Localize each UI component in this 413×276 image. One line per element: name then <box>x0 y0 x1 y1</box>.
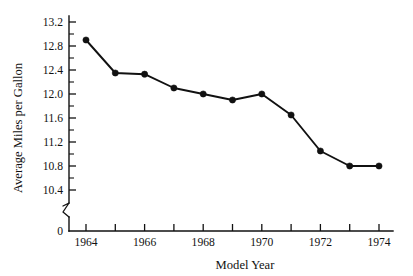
data-series-average-mpg <box>83 37 382 169</box>
x-tick-label: 1972 <box>309 236 332 249</box>
data-point <box>83 37 89 43</box>
y-origin-label: 0 <box>57 225 63 238</box>
y-tick-label: 10.8 <box>43 160 63 173</box>
y-axis-break-icon <box>63 203 69 217</box>
x-axis <box>69 224 393 231</box>
chart-container: 10.410.811.211.612.012.412.813.201964196… <box>0 0 413 276</box>
y-tick-label: 12.0 <box>43 88 63 101</box>
data-point <box>112 70 118 76</box>
data-point <box>288 112 294 118</box>
y-tick-label: 12.8 <box>43 40 63 53</box>
x-tick-label: 1974 <box>367 236 390 249</box>
y-axis <box>63 16 76 231</box>
y-tick-label: 11.6 <box>43 112 63 125</box>
data-point <box>200 91 206 97</box>
y-axis-title: Average Miles per Gallon <box>11 62 25 193</box>
data-point <box>376 163 382 169</box>
data-point <box>171 85 177 91</box>
y-tick-label: 13.2 <box>43 16 63 29</box>
x-tick-label: 1964 <box>74 236 97 249</box>
mpg-line-chart: 10.410.811.211.612.012.412.813.201964196… <box>0 0 413 276</box>
y-tick-label: 10.4 <box>43 184 63 197</box>
x-axis-title: Model Year <box>216 258 276 272</box>
y-tick-label: 11.2 <box>43 136 63 149</box>
y-tick-label: 12.4 <box>43 64 63 77</box>
data-point <box>317 148 323 154</box>
data-point <box>347 163 353 169</box>
x-tick-label: 1968 <box>192 236 215 249</box>
data-point <box>259 91 265 97</box>
data-point <box>229 97 235 103</box>
x-tick-label: 1970 <box>250 236 273 249</box>
data-point <box>142 71 148 77</box>
x-tick-label: 1966 <box>133 236 156 249</box>
